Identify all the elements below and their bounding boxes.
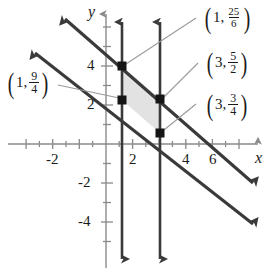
y-tick-label-2: 2 xyxy=(87,97,95,112)
y-axis-label: y xyxy=(88,4,95,20)
fraction-denominator: 6 xyxy=(229,17,239,29)
y-tick-label-4: 4 xyxy=(87,58,95,73)
comma-separator: , xyxy=(24,75,28,90)
x-axis-label: x xyxy=(255,150,262,166)
point-1-25-6 xyxy=(118,62,127,71)
point-x-value: 1 xyxy=(16,75,24,90)
x-tick-label-4: 4 xyxy=(182,152,190,167)
fraction: 3 4 xyxy=(228,92,238,117)
paren-open: ( xyxy=(8,71,15,94)
paren-open: ( xyxy=(207,51,214,74)
point-x-value: 1 xyxy=(213,10,221,25)
point-x-value: 3 xyxy=(215,97,223,112)
point-label-3-3-4: ( 3 , 3 4 ) xyxy=(205,92,249,117)
point-x-value: 3 xyxy=(215,55,223,70)
point-3-5-2 xyxy=(156,95,165,104)
point-label-3-5-2: ( 3 , 5 2 ) xyxy=(205,50,249,75)
paren-close: ) xyxy=(42,71,49,94)
leader-to-p-3-5-2 xyxy=(164,63,198,97)
point-1-9-4 xyxy=(118,96,127,105)
y-tick-label-neg4: -4 xyxy=(78,214,91,229)
graph-figure: -2 2 4 6 4 2 -2 -4 x y ( 1 , 25 6 ) ( 3 … xyxy=(0,0,275,277)
fraction-numerator: 9 xyxy=(29,70,39,82)
point-label-1-9-4: ( 1 , 9 4 ) xyxy=(6,70,50,95)
fraction-numerator: 25 xyxy=(226,6,241,17)
comma-separator: , xyxy=(221,10,225,25)
shaded-region xyxy=(122,66,160,133)
paren-close: ) xyxy=(241,93,248,116)
x-tick-label-neg2: -2 xyxy=(46,152,59,167)
point-3-3-4 xyxy=(156,129,165,138)
graph-canvas xyxy=(0,0,275,277)
comma-separator: , xyxy=(223,97,227,112)
paren-open: ( xyxy=(207,93,214,116)
paren-close: ) xyxy=(241,51,248,74)
comma-separator: , xyxy=(223,55,227,70)
fraction: 25 6 xyxy=(226,6,241,29)
fraction-numerator: 3 xyxy=(228,92,238,104)
y-tick-label-neg2: -2 xyxy=(78,175,91,190)
lower-diagonal-line xyxy=(35,53,253,224)
x-tick-label-6: 6 xyxy=(209,152,217,167)
fraction-denominator: 2 xyxy=(228,62,238,75)
fraction: 9 4 xyxy=(29,70,39,95)
fraction-denominator: 4 xyxy=(29,82,39,95)
paren-open: ( xyxy=(205,6,212,29)
fraction-denominator: 4 xyxy=(228,104,238,117)
point-label-1-25-6: ( 1 , 25 6 ) xyxy=(203,6,252,29)
fraction-numerator: 5 xyxy=(228,50,238,62)
x-tick-label-2: 2 xyxy=(129,152,137,167)
fraction: 5 2 xyxy=(228,50,238,75)
paren-close: ) xyxy=(244,6,251,29)
